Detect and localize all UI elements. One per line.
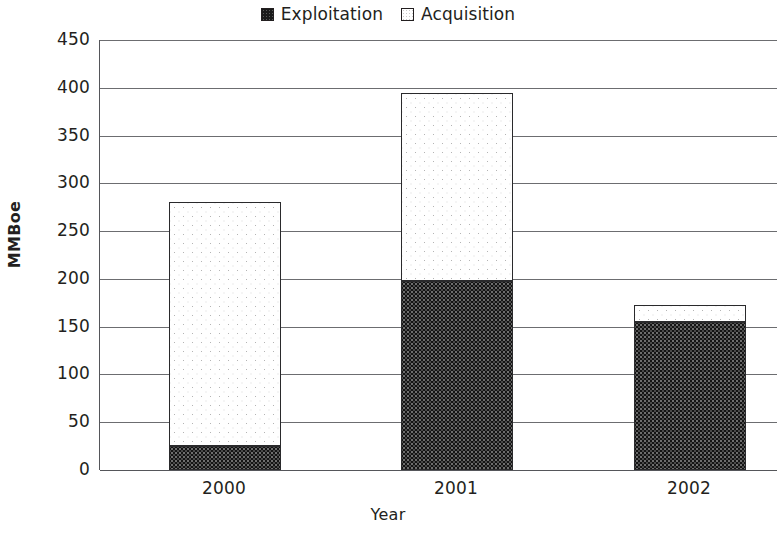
bar-segment-acquisition-2000 xyxy=(169,202,281,446)
y-axis-tick-label: 350 xyxy=(32,127,90,144)
bar-segment-acquisition-2001 xyxy=(401,93,513,281)
plot-area xyxy=(99,40,777,470)
legend-label-exploitation: Exploitation xyxy=(281,4,383,24)
legend-item-exploitation: Exploitation xyxy=(261,4,383,24)
bar-segment-exploitation-2001 xyxy=(401,281,513,470)
y-axis-tick-label: 450 xyxy=(32,31,90,48)
y-axis-tick-label: 50 xyxy=(32,413,90,430)
legend-item-acquisition: Acquisition xyxy=(401,4,515,24)
x-axis-title: Year xyxy=(0,505,776,524)
x-axis-tick-label-2002: 2002 xyxy=(599,478,779,498)
y-axis-tick-label: 0 xyxy=(32,461,90,478)
x-axis-tick-label-2001: 2001 xyxy=(366,478,546,498)
y-axis-tick-label: 400 xyxy=(32,79,90,96)
legend-swatch-exploitation-icon xyxy=(261,8,274,21)
bar-segment-acquisition-2002 xyxy=(634,305,746,322)
y-axis-tick-label: 250 xyxy=(32,222,90,239)
y-axis-tick-labels: 050100150200250300350400450 xyxy=(30,40,90,470)
chart-legend: Exploitation Acquisition xyxy=(0,0,776,28)
x-axis-line xyxy=(100,470,777,471)
gridline xyxy=(100,88,777,89)
bar-segment-exploitation-2000 xyxy=(169,446,281,470)
bar-2001 xyxy=(401,93,513,470)
bar-segment-exploitation-2002 xyxy=(634,322,746,470)
bar-2002 xyxy=(634,305,746,470)
y-axis-tick-label: 150 xyxy=(32,318,90,335)
legend-label-acquisition: Acquisition xyxy=(421,4,515,24)
bar-2000 xyxy=(169,202,281,470)
gridline xyxy=(100,40,777,41)
y-axis-title: MMBoe xyxy=(5,197,24,273)
x-axis-tick-label-2000: 2000 xyxy=(134,478,314,498)
y-axis-tick-label: 300 xyxy=(32,174,90,191)
y-axis-tick-label: 200 xyxy=(32,270,90,287)
y-axis-tick-label: 100 xyxy=(32,365,90,382)
legend-swatch-acquisition-icon xyxy=(401,8,414,21)
